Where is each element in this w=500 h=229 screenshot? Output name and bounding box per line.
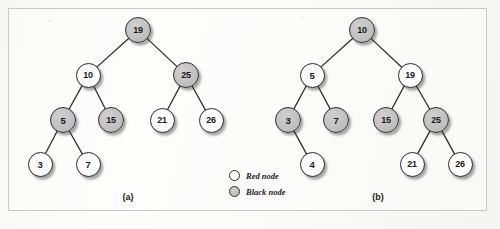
tree-node: 25	[423, 107, 449, 133]
red-node-swatch-icon	[229, 170, 240, 181]
tree-node-key: 3	[38, 159, 43, 170]
tree-node: 10	[349, 17, 375, 43]
tree-edge	[442, 130, 455, 154]
tree-edge	[417, 130, 430, 154]
tree-node-key: 19	[133, 25, 142, 35]
tree-node: 21	[400, 152, 425, 177]
tree-node-key: 10	[357, 25, 366, 35]
tree-node-key: 19	[405, 70, 414, 80]
tree-node-key: 15	[106, 115, 115, 125]
legend-label-red-node: Red node	[246, 171, 279, 181]
legend-item-red-node: Red node	[229, 170, 279, 181]
tree-edge	[192, 85, 206, 110]
panel-b-caption: (b)	[362, 192, 394, 202]
tree-node-key: 25	[181, 70, 190, 80]
tree-node: 10	[76, 63, 101, 88]
tree-edge	[370, 38, 402, 68]
tree-node: 25	[173, 62, 199, 88]
tree-edge	[93, 85, 106, 110]
tree-edge	[167, 85, 180, 110]
tree-node: 7	[76, 152, 101, 177]
tree-node: 3	[28, 152, 53, 177]
tree-node: 7	[323, 107, 349, 133]
tree-edge	[416, 85, 431, 111]
tree-node-key: 21	[157, 115, 166, 125]
tree-node: 19	[125, 17, 151, 43]
tree-edge	[391, 85, 404, 110]
scan-speck	[120, 140, 122, 142]
legend-item-black-node: Black node	[229, 186, 285, 197]
tree-node: 15	[98, 107, 124, 133]
scan-speck	[48, 20, 51, 22]
tree-node: 21	[150, 108, 175, 133]
tree-edge	[45, 130, 58, 154]
tree-edge	[146, 38, 177, 67]
tree-node: 26	[199, 108, 224, 133]
tree-node: 3	[275, 107, 301, 133]
red-black-tree-figure: 1910255152126371051937152542126 (a) (b) …	[0, 0, 500, 229]
tree-node-key: 21	[407, 159, 416, 169]
black-node-swatch-icon	[229, 186, 240, 197]
legend-label-black-node: Black node	[246, 187, 285, 197]
tree-edge	[69, 130, 83, 154]
panel-a-caption: (a)	[112, 192, 144, 202]
tree-node-key: 7	[334, 115, 339, 126]
tree-node: 5	[300, 63, 325, 88]
tree-node-key: 3	[286, 115, 291, 126]
tree-node-key: 7	[86, 159, 91, 170]
tree-node-key: 5	[310, 70, 315, 81]
tree-node: 19	[398, 63, 423, 88]
tree-edge	[96, 38, 129, 68]
tree-edge	[69, 85, 83, 110]
tree-node-key: 4	[310, 159, 315, 170]
tree-node-key: 26	[206, 115, 215, 125]
tree-edge	[317, 85, 330, 110]
tree-node: 4	[300, 152, 325, 177]
tree-node-key: 5	[61, 115, 66, 126]
tree-node-key: 15	[381, 115, 390, 125]
tree-node: 26	[448, 152, 473, 177]
tree-node-key: 25	[431, 115, 440, 125]
tree-node: 15	[373, 107, 399, 133]
scan-speck	[301, 16, 303, 18]
tree-node-key: 10	[83, 70, 92, 80]
tree-edge	[293, 85, 306, 110]
tree-edge	[294, 130, 307, 154]
tree-node-key: 26	[455, 159, 464, 169]
tree-edge	[320, 38, 353, 68]
tree-node: 5	[50, 107, 76, 133]
